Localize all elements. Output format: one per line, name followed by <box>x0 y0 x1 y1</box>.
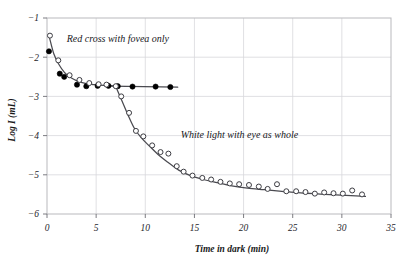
data-point-open <box>56 58 61 63</box>
data-point-open <box>119 94 124 99</box>
data-point-open <box>246 182 251 187</box>
data-point-open <box>47 33 52 38</box>
y-tick-label: −5 <box>28 170 39 180</box>
data-point-filled <box>168 84 173 89</box>
data-point-filled <box>130 84 135 89</box>
data-point-open <box>294 189 299 194</box>
data-point-filled <box>46 49 51 54</box>
y-tick-label: −1 <box>28 13 39 23</box>
data-point-open <box>265 186 270 191</box>
y-tick-label: −6 <box>28 209 39 219</box>
x-axis-title: Time in dark (min) <box>195 244 269 255</box>
data-point-open <box>237 182 242 187</box>
dark-adaptation-chart: 05101520253035 −6−5−4−3−2−1 Red cross wi… <box>0 0 415 262</box>
data-point-open <box>77 77 82 82</box>
annotation-cone-branch: Red cross with fovea only <box>66 33 170 44</box>
data-point-open <box>190 173 195 178</box>
data-point-open <box>181 169 186 174</box>
data-point-open <box>303 190 308 195</box>
data-point-open <box>67 73 72 78</box>
y-axis-title: Log I (mL) <box>7 98 18 142</box>
y-tick-label: −2 <box>28 53 39 63</box>
data-point-open <box>87 81 92 86</box>
y-tick-label: −3 <box>28 92 39 102</box>
data-point-open <box>256 184 261 189</box>
data-point-open <box>200 175 205 180</box>
data-point-open <box>127 110 132 115</box>
data-point-filled <box>153 84 158 89</box>
data-point-open <box>209 177 214 182</box>
data-point-open <box>284 189 289 194</box>
figure-root: 05101520253035 −6−5−4−3−2−1 Red cross wi… <box>0 0 415 262</box>
data-point-open <box>141 134 146 139</box>
data-point-open <box>312 191 317 196</box>
data-point-open <box>150 143 155 148</box>
annotation-rod-branch: White light with eye as whole <box>181 129 299 140</box>
x-tick-label: 0 <box>45 223 50 233</box>
x-tick-label: 20 <box>239 223 249 233</box>
data-point-open <box>227 181 232 186</box>
data-point-open <box>158 150 163 155</box>
x-tick-label: 10 <box>141 223 151 233</box>
data-point-open <box>133 128 138 133</box>
x-tick-label: 35 <box>385 223 396 233</box>
data-point-open <box>96 82 101 87</box>
x-tick-label: 15 <box>190 223 200 233</box>
data-point-open <box>113 84 118 89</box>
data-point-open <box>174 164 179 169</box>
x-tick-label: 5 <box>94 223 99 233</box>
data-point-open <box>274 182 279 187</box>
x-tick-label: 25 <box>288 223 298 233</box>
data-point-open <box>340 191 345 196</box>
data-point-filled <box>57 71 62 76</box>
data-point-open <box>322 190 327 195</box>
data-point-open <box>104 82 109 87</box>
data-point-open <box>166 151 171 156</box>
y-tick-label: −4 <box>28 131 39 141</box>
x-tick-label: 30 <box>336 223 347 233</box>
data-point-open <box>360 192 365 197</box>
data-point-open <box>331 191 336 196</box>
data-point-open <box>218 179 223 184</box>
data-point-filled <box>62 74 67 79</box>
data-point-open <box>350 188 355 193</box>
